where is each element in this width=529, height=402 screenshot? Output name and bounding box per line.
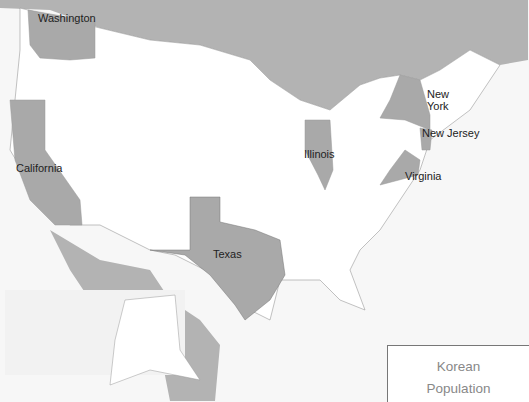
- legend-box: Korean Population: [387, 345, 529, 402]
- label-washington: Washington: [38, 12, 96, 24]
- label-texas: Texas: [213, 248, 242, 260]
- label-california: California: [16, 162, 62, 174]
- label-illinois: Illinois: [304, 148, 335, 160]
- label-new-york-2: York: [427, 100, 449, 112]
- label-new-jersey: New Jersey: [422, 127, 479, 139]
- label-new-york-1: New: [427, 88, 449, 100]
- label-virginia: Virginia: [405, 170, 442, 182]
- legend-title-line1: Korean: [388, 356, 529, 378]
- legend-title-line2: Population: [388, 378, 529, 400]
